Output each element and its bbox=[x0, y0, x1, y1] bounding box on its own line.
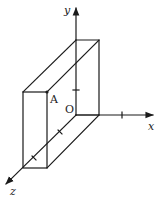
point-a-marker bbox=[45, 90, 48, 93]
box-edge-bottom-right bbox=[47, 115, 99, 168]
y-axis-label: y bbox=[64, 5, 70, 16]
coordinate-box-diagram bbox=[0, 0, 159, 199]
box-edge-top-left bbox=[23, 40, 76, 92]
box-edge-top-right bbox=[47, 40, 99, 92]
box-front-face bbox=[23, 92, 47, 168]
z-axis-label: z bbox=[10, 186, 16, 197]
point-a-label: A bbox=[50, 94, 58, 105]
x-axis-label: x bbox=[148, 121, 154, 132]
origin-label: O bbox=[65, 104, 74, 115]
